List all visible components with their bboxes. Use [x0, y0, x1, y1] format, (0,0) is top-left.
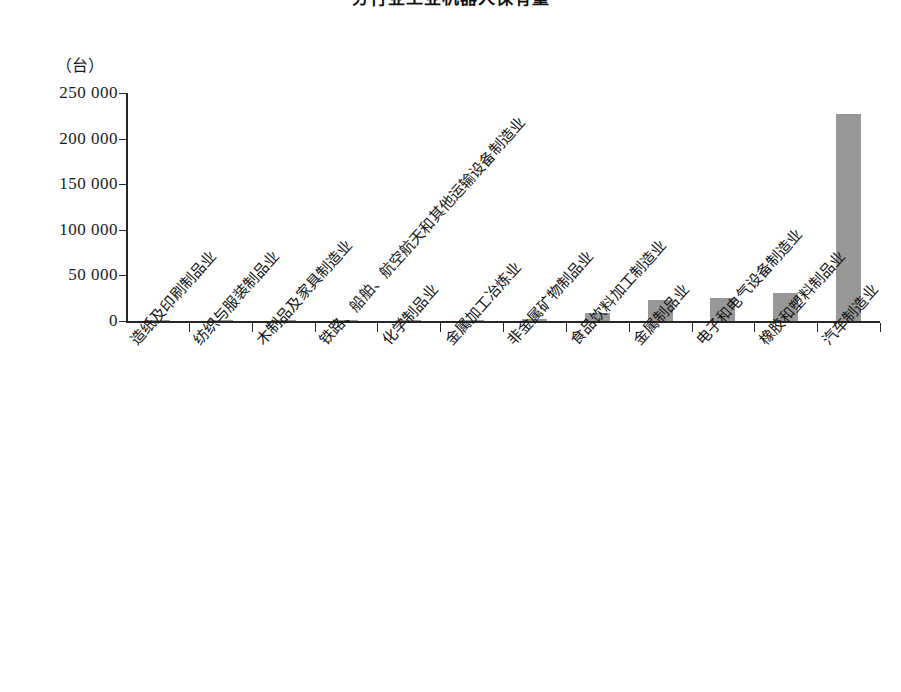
bar — [836, 114, 861, 321]
bar-chart: 分行业工业机器人保有量 （台） 250 000200 000150 000100… — [0, 0, 901, 692]
